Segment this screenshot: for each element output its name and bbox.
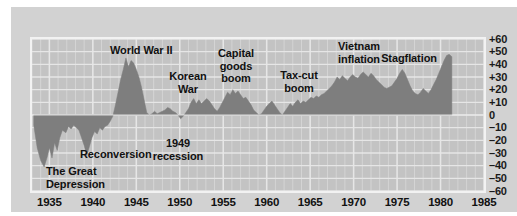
- annotation-reconversion: Reconversion: [80, 148, 152, 161]
- y-axis-tick: –10: [489, 122, 507, 133]
- annotation-tax-cut-boom: Tax-cut boom: [280, 69, 318, 94]
- x-axis-tick: 1935: [37, 196, 62, 208]
- y-axis-tick: –50: [489, 173, 507, 184]
- x-axis-tick: 1940: [80, 196, 105, 208]
- x-axis-tick: 1960: [254, 196, 279, 208]
- annotation-capital-goods-boom: Capital goods boom: [218, 47, 254, 85]
- x-axis-tick: 1965: [298, 196, 323, 208]
- annotation-vietnam-inflation: Vietnam inflation: [338, 40, 380, 65]
- y-axis-tick: –20: [489, 135, 507, 146]
- x-axis-tick: 1950: [167, 196, 192, 208]
- y-axis-tick: 0: [489, 110, 495, 121]
- annotation-the-great-depression: The Great Depression: [46, 165, 105, 190]
- y-axis-tick: +10: [489, 97, 507, 108]
- y-axis-tick: –40: [489, 160, 507, 171]
- annotation-world-war-ii: World War II: [110, 44, 172, 57]
- annotation-korean-war: Korean War: [169, 70, 206, 95]
- x-axis-tick: 1985: [472, 196, 497, 208]
- annotation-1949-recession: 1949 recession: [153, 137, 203, 162]
- y-axis-tick: +60: [489, 34, 507, 45]
- chart-figure: World War II Korean War Capital goods bo…: [0, 0, 517, 216]
- y-axis-tick: –30: [489, 148, 507, 159]
- x-axis-tick: 1975: [385, 196, 410, 208]
- x-axis-tick: 1970: [341, 196, 366, 208]
- x-axis-tick: 1945: [124, 196, 149, 208]
- annotation-stagflation: Stagflation: [381, 52, 437, 65]
- y-axis-tick: +20: [489, 84, 507, 95]
- y-axis-tick: +30: [489, 72, 507, 83]
- y-axis-tick: +40: [489, 59, 507, 70]
- y-axis-tick: +50: [489, 46, 507, 57]
- chart-card: World War II Korean War Capital goods bo…: [11, 7, 517, 212]
- x-axis-tick: 1980: [428, 196, 453, 208]
- y-axis-tick: –60: [489, 186, 507, 197]
- x-axis-tick: 1955: [211, 196, 236, 208]
